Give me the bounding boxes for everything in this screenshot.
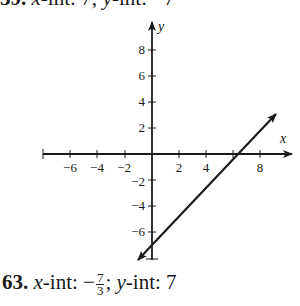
x-tick-label: −6 bbox=[63, 160, 77, 175]
y-tick-labels: 8 6 4 2 −2 −4 −6 bbox=[131, 42, 145, 239]
y-variable: y bbox=[117, 270, 126, 294]
y-tick-label: 6 bbox=[139, 68, 146, 83]
graph-line bbox=[138, 245, 152, 260]
x-intercept-text: -int: − bbox=[43, 270, 95, 294]
answer-caption: 63. x-int: −73; y-int: 7 bbox=[2, 270, 177, 297]
y-axis-label: y bbox=[156, 19, 165, 34]
x-tick-labels: −6 −4 −2 2 4 8 bbox=[63, 160, 263, 175]
x-variable: x bbox=[34, 270, 43, 294]
x-tick-label: −4 bbox=[90, 160, 104, 175]
graph-line bbox=[152, 114, 276, 245]
x-tick-label: 2 bbox=[176, 160, 183, 175]
y-tick-label: −6 bbox=[131, 224, 145, 239]
separator: ; bbox=[105, 270, 116, 294]
problem-number: 63. bbox=[2, 270, 28, 294]
x-tick-label: −2 bbox=[117, 160, 131, 175]
y-tick-label: 8 bbox=[139, 42, 146, 57]
fraction: 73 bbox=[96, 272, 105, 297]
y-intercept-text: -int: 7 bbox=[126, 270, 177, 294]
coordinate-graph: −6 −4 −2 2 4 8 8 6 4 2 −2 −4 −6 x y bbox=[0, 0, 300, 306]
x-axis-label: x bbox=[279, 131, 287, 146]
y-tick-label: 2 bbox=[139, 120, 146, 135]
x-tick-label: 4 bbox=[203, 160, 210, 175]
x-tick-label: 8 bbox=[257, 160, 264, 175]
y-tick-label: 4 bbox=[139, 94, 146, 109]
y-tick-label: −4 bbox=[131, 198, 145, 213]
y-tick-label: −2 bbox=[131, 174, 145, 189]
fraction-denominator: 3 bbox=[96, 285, 105, 297]
